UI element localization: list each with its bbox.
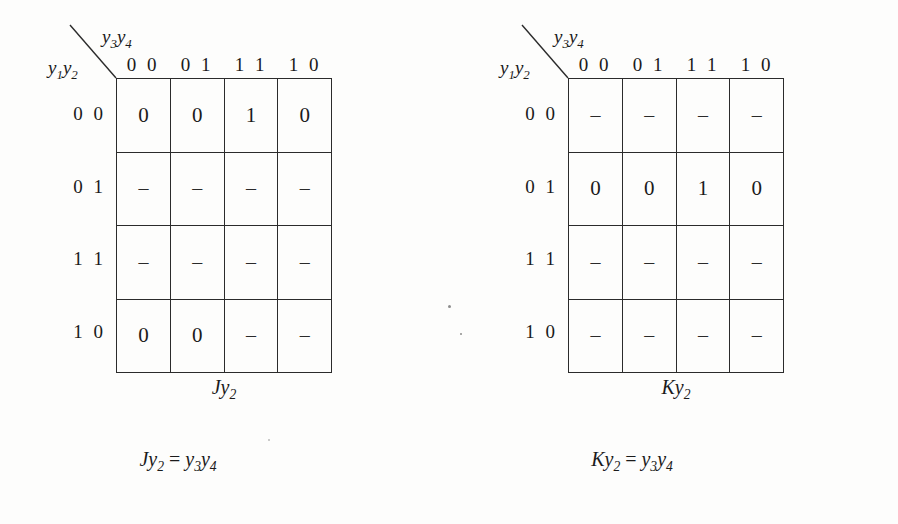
row-headers: 0 0 0 1 1 1 1 0 [54,78,112,368]
kmap-cell: 0 [170,79,224,153]
column-header: 1 0 [278,54,332,76]
table-row: – – – – [569,79,784,153]
kmap-cell: – [730,79,784,153]
kmap-cell: – [224,299,278,373]
scan-speck [448,305,451,308]
kmap-cell: 0 [117,299,171,373]
kmap-cell: – [569,226,623,300]
row-header: 0 0 [506,78,564,151]
row-header: 0 0 [54,78,112,151]
kmap-cell: – [730,226,784,300]
column-header: 0 0 [116,54,170,76]
kmap-cell: – [676,299,730,373]
kmap-cell: – [278,226,332,300]
column-header: 1 1 [676,54,730,76]
kmap-grid-jy2: 0 0 1 0 – – – – – – – – [116,78,332,368]
kmap-cell: – [622,79,676,153]
kmap-cell: – [224,226,278,300]
column-variable-label: y3y4 [554,26,584,52]
table-row: – – – – [117,226,332,300]
kmap-cell: 0 [622,152,676,226]
kmap-cell: – [622,226,676,300]
kmap-cell: 1 [224,79,278,153]
kmap-cell: 0 [730,152,784,226]
figure-page: y3y4 y1y2 0 0 0 1 1 1 1 0 0 0 0 1 1 1 1 … [0,0,898,524]
kmap-caption-ky2: Ky2 [568,376,784,403]
table-row: 0 0 1 0 [569,152,784,226]
kmap-cell: 0 [170,299,224,373]
kmap-cell: 0 [117,79,171,153]
equation-jy2: Jy2=y3y4 [28,448,328,475]
scan-speck [268,439,270,441]
column-headers: 0 0 0 1 1 1 1 0 [568,54,784,76]
table-row: 0 0 – – [117,299,332,373]
row-header: 1 0 [506,296,564,369]
kmap-cell: – [278,299,332,373]
kmap-cell: – [622,299,676,373]
kmap-cell: – [170,152,224,226]
kmap-cell: 0 [278,79,332,153]
row-header: 1 1 [54,223,112,296]
kmap-cell: – [676,79,730,153]
equation-ky2: Ky2=y3y4 [482,448,782,475]
kmap-cell: – [569,299,623,373]
column-header: 0 0 [568,54,622,76]
kmap-cell: – [730,299,784,373]
row-header: 0 1 [506,151,564,224]
kmap-cell: 0 [569,152,623,226]
kmap-cell: – [676,226,730,300]
column-header: 0 1 [170,54,224,76]
table-row: – – – – [569,226,784,300]
scan-speck [460,333,462,335]
kmap-cell: – [569,79,623,153]
table-row: – – – – [569,299,784,373]
row-headers: 0 0 0 1 1 1 1 0 [506,78,564,368]
kmap-caption-jy2: Jy2 [116,376,332,403]
kmap-cell: – [117,152,171,226]
row-header: 0 1 [54,151,112,224]
kmap-cell: – [278,152,332,226]
column-header: 0 1 [622,54,676,76]
kmap-grid-ky2: – – – – 0 0 1 0 – – – – [568,78,784,368]
kmap-cell: – [224,152,278,226]
kmap-cell: 1 [676,152,730,226]
table-row: 0 0 1 0 [117,79,332,153]
column-headers: 0 0 0 1 1 1 1 0 [116,54,332,76]
kmap-cell: – [170,226,224,300]
column-header: 1 1 [224,54,278,76]
column-variable-label: y3y4 [102,26,132,52]
column-header: 1 0 [730,54,784,76]
row-header: 1 0 [54,296,112,369]
row-header: 1 1 [506,223,564,296]
kmap-cell: – [117,226,171,300]
table-row: – – – – [117,152,332,226]
